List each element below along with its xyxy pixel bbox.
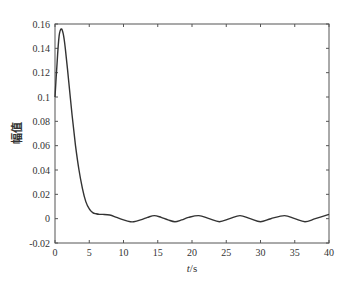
x-tick-label: 40 [324,247,334,258]
y-tick-label: -0.02 [29,238,50,249]
y-tick-label: 0.06 [33,140,51,151]
x-tick-label: 35 [290,247,300,258]
x-tick-label: 5 [87,247,92,258]
y-tick-label: 0.14 [33,43,51,54]
y-tick-label: 0.08 [33,116,51,127]
amplitude-curve [55,29,329,222]
y-tick-label: 0.02 [33,189,51,200]
x-tick-label: 30 [256,247,266,258]
x-axis-ticks: 0510152025303540 [53,24,335,258]
line-chart: -0.0200.020.040.060.080.10.120.140.16 05… [0,0,350,283]
x-tick-label: 20 [187,247,197,258]
x-tick-label: 10 [119,247,129,258]
x-tick-label: 25 [221,247,231,258]
y-tick-label: 0.1 [38,92,51,103]
y-tick-label: 0.04 [33,165,51,176]
x-axis-label: t/s [187,262,197,274]
x-tick-label: 0 [53,247,58,258]
y-tick-label: 0 [45,213,50,224]
y-axis-label: 幅值 [10,122,23,144]
x-tick-label: 15 [153,247,163,258]
y-tick-label: 0.16 [33,19,51,30]
axes-box [55,24,329,243]
y-tick-label: 0.12 [33,67,51,78]
